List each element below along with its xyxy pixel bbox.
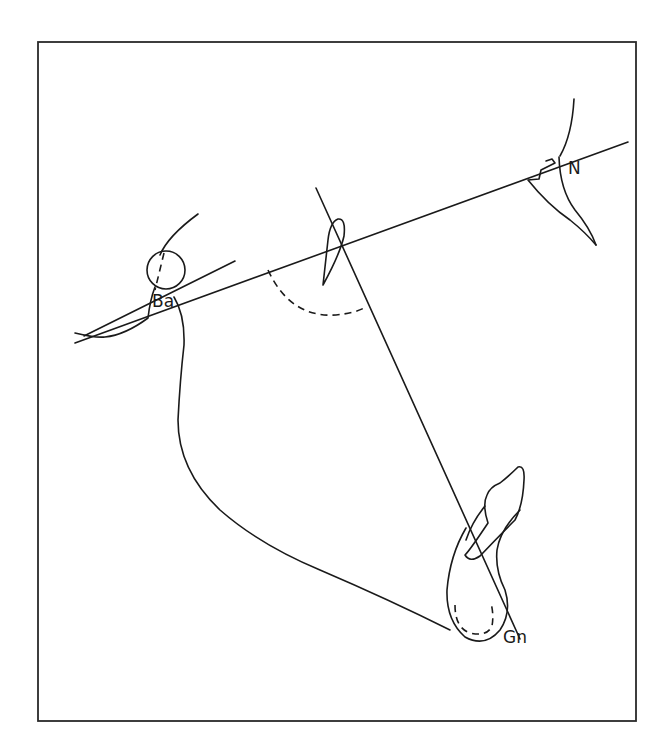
symphysis-inner-cortex [455, 603, 493, 634]
nasal-profile-outline [528, 159, 596, 245]
gnathion-label: Gn [503, 627, 527, 647]
facial-axis-angle-arc [268, 270, 364, 315]
condyle-axis-dashed [155, 253, 164, 290]
frontal-bone-curve [560, 99, 574, 156]
condyle-circle [147, 251, 185, 289]
cephalometric-diagram: Ba N Gn [0, 0, 663, 750]
incisor-outline [465, 467, 524, 560]
mandible-outline [174, 297, 450, 630]
basion-label: Ba [152, 291, 174, 311]
nasion-label: N [568, 158, 581, 178]
incisor-labial-line [466, 506, 485, 540]
facial-axis-line [316, 188, 520, 639]
basion-nasion-line [75, 142, 628, 343]
basion-curve [75, 287, 155, 337]
cranial-base-arc [160, 214, 198, 255]
diagram-frame [38, 42, 636, 721]
